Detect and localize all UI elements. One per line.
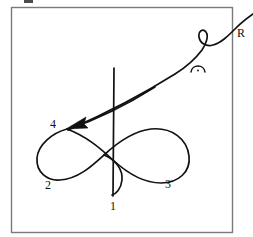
label-region-1: 1 — [110, 200, 116, 212]
label-vertex-4: 4 — [50, 118, 56, 130]
vertical-line — [113, 68, 114, 196]
frame-border — [12, 8, 233, 233]
ray-r — [68, 14, 253, 130]
label-region-2: 2 — [45, 179, 51, 191]
arc-mark-dot-icon — [197, 70, 199, 72]
label-ray-r: R — [237, 27, 245, 39]
label-region-3: 3 — [165, 178, 171, 190]
figure-canvas: 1 2 3 4 R — [0, 0, 253, 237]
diagram-svg — [0, 0, 253, 237]
